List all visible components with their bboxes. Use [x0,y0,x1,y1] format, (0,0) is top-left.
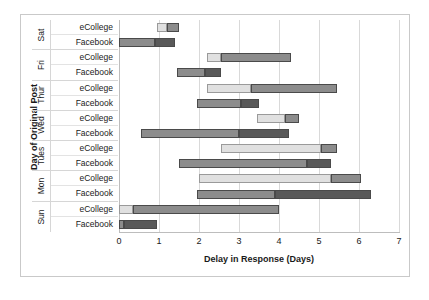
day-label-column: SatFriThurWedTuesMonSun [32,20,50,232]
platform-label: Facebook [76,158,113,168]
bar-row [119,35,399,50]
platform-label-tues-ecollege: eCollege [51,141,118,156]
platform-label-tues-facebook: Facebook [51,156,118,171]
platform-label: eCollege [79,52,113,62]
bar-row [119,171,399,186]
day-group-sat: Sat [32,20,50,50]
bar-row [119,50,399,65]
platform-label-sun-facebook: Facebook [51,217,118,232]
platform-label: Facebook [76,128,113,138]
platform-label: eCollege [79,113,113,123]
plot-area [119,20,399,232]
bar-row [119,156,399,171]
bar-segment-tues-ecollege-0 [221,144,321,153]
bar-row [119,81,399,96]
x-tick-labels: 01234567 [119,236,399,252]
platform-label-wed-ecollege: eCollege [51,111,118,126]
day-group-thur: Thur [32,81,50,111]
bar-segment-wed-facebook-0 [141,129,239,138]
x-axis-title: Delay in Response (Days) [119,254,399,264]
bar-segment-thur-ecollege-0 [207,84,251,93]
bar-segment-tues-ecollege-1 [321,144,337,153]
bar-segment-mon-facebook-0 [197,190,275,199]
platform-label-fri-ecollege: eCollege [51,50,118,65]
platform-label: eCollege [79,204,113,214]
platform-label: Facebook [76,219,113,229]
x-tick-label-7: 7 [396,236,401,246]
day-group-wed: Wed [32,111,50,141]
platform-label-sat-facebook: Facebook [51,35,118,50]
bar-segment-thur-ecollege-1 [251,84,337,93]
bar-segment-fri-facebook-0 [177,68,205,77]
platform-label: Facebook [76,37,113,47]
platform-label: Facebook [76,98,113,108]
platform-label-sat-ecollege: eCollege [51,20,118,35]
bar-row [119,20,399,35]
bar-segment-wed-facebook-1 [239,129,289,138]
bar-segment-mon-ecollege-1 [331,174,361,183]
day-group-label: Mon [36,178,46,195]
platform-label-fri-facebook: Facebook [51,65,118,80]
x-tick-label-0: 0 [116,236,121,246]
day-group-label: Sun [36,209,46,224]
day-group-label: Fri [36,60,46,70]
bar-row [119,96,399,111]
bar-segment-sat-ecollege-0 [157,23,167,32]
x-tick-label-1: 1 [156,236,161,246]
bar-segment-sat-ecollege-1 [167,23,179,32]
bar-row [119,141,399,156]
bar-row [119,217,399,232]
day-group-label: Wed [36,117,46,134]
bar-segment-tues-facebook-0 [179,159,307,168]
bar-segment-mon-ecollege-0 [199,174,331,183]
day-group-tues: Tues [32,141,50,171]
day-group-sun: Sun [32,202,50,232]
platform-label-thur-ecollege: eCollege [51,81,118,96]
bar-segment-sun-facebook-1 [124,220,157,229]
bar-segment-mon-facebook-1 [275,190,371,199]
bar-row [119,126,399,141]
platform-label: Facebook [76,188,113,198]
bar-segment-sat-facebook-0 [119,38,155,47]
day-group-fri: Fri [32,50,50,80]
bar-segment-fri-ecollege-1 [221,53,291,62]
bar-segment-sun-ecollege-0 [119,205,133,214]
bar-segment-fri-facebook-1 [205,68,221,77]
bar-segment-wed-ecollege-1 [285,114,299,123]
day-group-label: Thur [36,86,46,103]
x-tick-label-6: 6 [356,236,361,246]
platform-label-column: eCollegeFacebookeCollegeFacebookeCollege… [50,20,118,232]
platform-label-thur-facebook: Facebook [51,96,118,111]
platform-label: eCollege [79,83,113,93]
platform-label: Facebook [76,67,113,77]
platform-label: eCollege [79,143,113,153]
bar-row [119,111,399,126]
gridline-7 [399,20,400,232]
bar-row [119,187,399,202]
bar-segment-sun-ecollege-1 [133,205,279,214]
chart-container: Day of Original Post SatFriThurWedTuesMo… [0,0,429,300]
x-tick-label-4: 4 [276,236,281,246]
bar-segment-sat-facebook-1 [155,38,175,47]
platform-label-mon-facebook: Facebook [51,186,118,201]
x-tick-label-3: 3 [236,236,241,246]
day-group-mon: Mon [32,171,50,201]
x-tick-label-5: 5 [316,236,321,246]
platform-label-mon-ecollege: eCollege [51,171,118,186]
bar-row [119,65,399,80]
platform-label-sun-ecollege: eCollege [51,202,118,217]
platform-label: eCollege [79,173,113,183]
bar-row [119,202,399,217]
bar-segment-thur-facebook-0 [197,99,241,108]
platform-label-wed-facebook: Facebook [51,126,118,141]
bar-segment-wed-ecollege-0 [257,114,285,123]
platform-label: eCollege [79,22,113,32]
x-axis-line [119,232,400,233]
bar-segment-tues-facebook-1 [307,159,331,168]
x-tick-label-2: 2 [196,236,201,246]
day-group-label: Tues [36,146,46,165]
day-group-label: Sat [36,28,46,41]
bar-segment-fri-ecollege-0 [207,53,221,62]
bar-segment-thur-facebook-1 [241,99,259,108]
